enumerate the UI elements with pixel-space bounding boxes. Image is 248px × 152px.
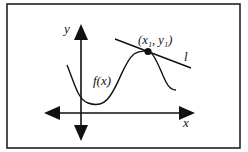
tangent-point [144, 48, 151, 55]
diagram-frame [7, 4, 240, 148]
x-axis-label: x [182, 115, 189, 130]
tangent-line-label: l [184, 49, 188, 64]
function-label: f(x) [93, 73, 111, 88]
point-label: (x₁, y₁) [138, 33, 172, 47]
y-axis-label: y [62, 21, 70, 36]
tangent-diagram: y x f(x) (x₁, y₁) l [0, 0, 248, 152]
